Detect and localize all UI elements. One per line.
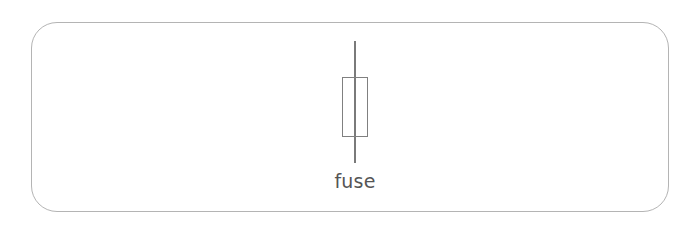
- fuse-body-rectangle-icon: [342, 77, 368, 137]
- figure-canvas: fuse: [0, 0, 700, 238]
- symbol-caption-label: fuse: [255, 170, 455, 192]
